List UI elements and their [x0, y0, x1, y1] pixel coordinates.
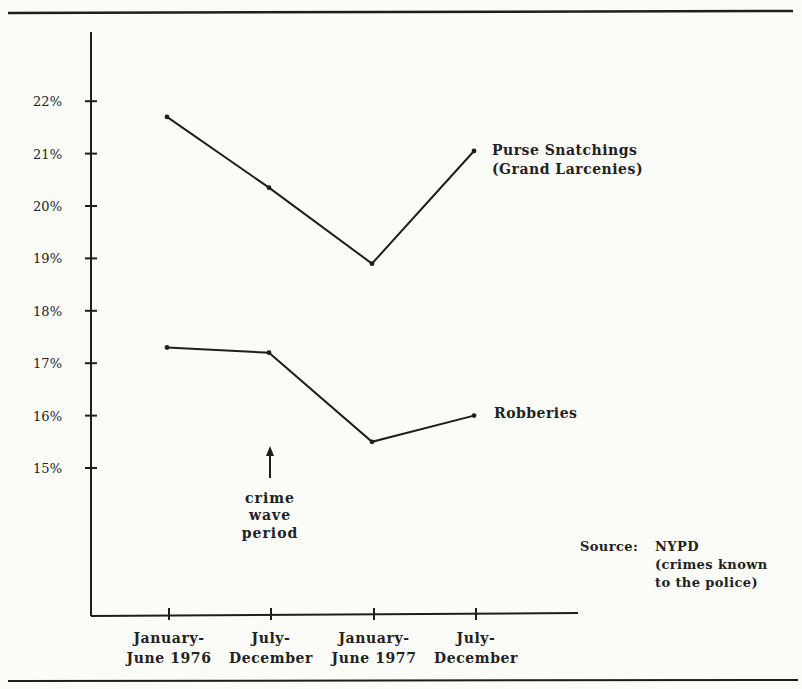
series-line-0 [167, 117, 474, 264]
y-tick-label: 16% [33, 409, 62, 424]
bottom-rule [8, 680, 798, 681]
data-point [472, 149, 477, 154]
data-point [472, 413, 477, 418]
annotation-line1: crime [245, 490, 295, 506]
y-tick-label: 15% [33, 461, 62, 476]
y-tick-label: 22% [33, 94, 62, 109]
data-point [267, 350, 272, 355]
y-axis-ticks: 22%21%20%19%18%17%16%15% [33, 94, 97, 476]
series-label-purse-line1: Purse Snatchings [492, 142, 637, 158]
source-note-line1: (crimes known [655, 557, 768, 572]
data-point [370, 439, 375, 444]
y-tick-label: 17% [33, 356, 62, 371]
x-tick-label: January- [131, 630, 204, 646]
series-lines [165, 115, 477, 445]
series-label-robberies: Robberies [494, 405, 577, 421]
source-note-line2: to the police) [655, 575, 758, 590]
x-tick-label: July- [454, 630, 495, 646]
data-point [165, 115, 170, 120]
x-axis [91, 613, 578, 616]
data-point [165, 345, 170, 350]
source-name: NYPD [655, 539, 699, 554]
annotation-line2: wave [248, 507, 291, 523]
x-tick-label: December [434, 650, 518, 666]
y-tick-label: 21% [33, 147, 62, 162]
up-arrow-icon [266, 446, 274, 478]
annotation-line3: period [242, 525, 299, 541]
y-tick-label: 19% [33, 251, 62, 266]
series-label-purse-line2: (Grand Larcenies) [492, 161, 643, 177]
top-rule [8, 11, 793, 13]
x-tick-label: July- [249, 630, 290, 646]
data-point [370, 261, 375, 266]
x-tick-label: June 1976 [124, 650, 211, 666]
x-axis-ticks: January-June 1976July-DecemberJanuary-Ju… [124, 608, 518, 666]
x-tick-label: June 1977 [329, 650, 416, 666]
data-point [267, 185, 272, 190]
x-tick-label: January- [336, 630, 409, 646]
source-label: Source: [580, 539, 638, 554]
y-tick-label: 20% [33, 199, 62, 214]
y-tick-label: 18% [33, 304, 62, 319]
chart-canvas: 22%21%20%19%18%17%16%15% January-June 19… [0, 0, 802, 689]
x-tick-label: December [229, 650, 313, 666]
series-line-1 [167, 347, 474, 441]
